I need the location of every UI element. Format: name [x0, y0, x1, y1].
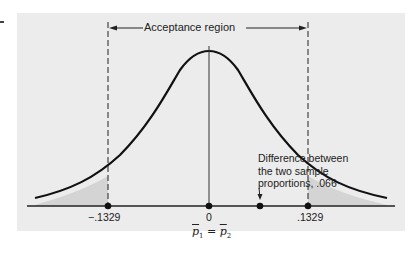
mean-tick-label: 0: [206, 212, 212, 223]
upper-critical-point: [305, 203, 312, 210]
acceptance-region-label: Acceptance region: [143, 22, 236, 33]
mean-point: [206, 203, 213, 210]
p2-symbol: p: [220, 225, 227, 238]
null-hypothesis-label: p1 = p2: [192, 226, 231, 240]
arrow-right-icon: [299, 26, 307, 31]
arrow-left-icon: [109, 26, 117, 31]
arrow-down-icon: [258, 194, 263, 200]
left-tail-shade: [35, 176, 108, 206]
lower-critical-tick-label: −.1329: [88, 212, 120, 223]
lower-critical-point: [105, 203, 112, 210]
sample-difference-annotation: Difference between the two sample propor…: [258, 152, 348, 190]
annotation-line-1: Difference between: [258, 152, 348, 165]
p2-subscript: 2: [227, 232, 231, 240]
equals-sign: =: [204, 225, 220, 238]
upper-critical-tick-label: .1329: [297, 212, 323, 223]
annotation-line-2: the two sample: [258, 165, 348, 178]
sample-difference-point: [257, 203, 264, 210]
p1-symbol: p: [192, 225, 199, 238]
annotation-line-3: proportions, .066: [258, 177, 348, 190]
